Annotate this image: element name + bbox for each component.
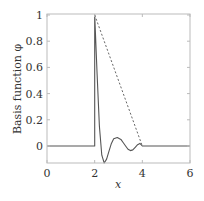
y-tick-label: 0.4 bbox=[26, 88, 44, 101]
x-tick-label: 0 bbox=[44, 167, 51, 180]
plot-frame bbox=[47, 14, 190, 163]
solid-series-line bbox=[47, 15, 190, 163]
y-tick-label: 0.2 bbox=[26, 114, 44, 127]
chart: 0246 00.20.40.60.81 x Basis function φ bbox=[0, 0, 204, 201]
axis-ticks bbox=[47, 14, 190, 163]
x-tick-label: 2 bbox=[91, 167, 98, 180]
dashed-series-line bbox=[95, 15, 143, 146]
x-axis-label: x bbox=[115, 178, 122, 191]
y-tick-label: 0.6 bbox=[26, 61, 44, 74]
y-tick-label: 0 bbox=[36, 140, 43, 153]
y-tick-label: 1 bbox=[36, 9, 43, 22]
x-tick-label: 4 bbox=[139, 167, 146, 180]
plot-lines bbox=[47, 15, 190, 163]
y-axis-label: Basis function φ bbox=[11, 44, 24, 134]
y-tick-label: 0.8 bbox=[26, 35, 44, 48]
x-tick-label: 6 bbox=[187, 167, 194, 180]
y-tick-labels: 00.20.40.60.81 bbox=[26, 9, 44, 153]
